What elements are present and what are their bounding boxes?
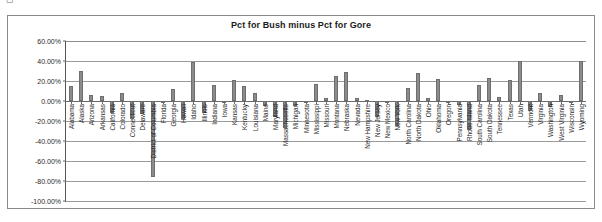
bar[interactable] [212, 85, 216, 101]
bar-group: South Carolina [474, 41, 484, 201]
bar-group: Pennsylvania [453, 41, 463, 201]
x-axis-category-label: Tennessee [496, 104, 503, 134]
bar-group: Maryland [270, 41, 280, 201]
bar-group: Indiana [209, 41, 219, 201]
x-axis-category-label: Idaho [190, 104, 197, 120]
bar[interactable] [508, 80, 512, 101]
bar-group: Hawaii [178, 41, 188, 201]
x-axis-category-label: Delaware [139, 104, 146, 131]
x-axis-category-label: New York [394, 104, 401, 131]
bar[interactable] [477, 85, 481, 101]
bar-group: Wyoming [576, 41, 586, 201]
bar[interactable] [171, 89, 175, 101]
x-axis-category-label: Ohio [424, 104, 431, 117]
bar-group: Vermont [525, 41, 535, 201]
bar-group: Alaska [76, 41, 86, 201]
bar-group: Arizona [86, 41, 96, 201]
bar-group: New Hampshire [362, 41, 372, 201]
x-axis-category-label: Nebraska [343, 104, 350, 131]
x-axis-category-label: Wyoming [577, 104, 584, 130]
bar-group: District of Columbia [148, 41, 158, 201]
bar[interactable] [253, 93, 257, 101]
bar-group: Kansas [229, 41, 239, 201]
x-axis-category-label: Kansas [231, 104, 238, 125]
bar-group: Kentucky [239, 41, 249, 201]
caption-fragment: ◻ [6, 0, 20, 4]
bar-group: Ohio [423, 41, 433, 201]
bar[interactable] [69, 86, 73, 101]
bar[interactable] [487, 78, 491, 101]
x-axis-category-label: New Hampshire [363, 104, 370, 149]
y-axis-tick-label: -20.00% [35, 118, 61, 125]
y-axis-tick-label: -60.00% [35, 158, 61, 165]
bar-group: South Dakota [484, 41, 494, 201]
y-axis-tick-label: 60.00% [37, 38, 61, 45]
x-axis-category-label: Alabama [68, 104, 75, 129]
bar-group: Mississippi [311, 41, 321, 201]
bar-group: Maine [260, 41, 270, 201]
bar-group: Washington [545, 41, 555, 201]
bar-group: Delaware [137, 41, 147, 201]
bar-group: New Mexico [382, 41, 392, 201]
bar[interactable] [344, 72, 348, 101]
x-axis-category-label: Nevada [353, 104, 360, 126]
chart-container: Pct for Bush minus Pct for Gore 60.00%40… [7, 15, 595, 209]
y-axis-tick-label: -40.00% [35, 138, 61, 145]
x-axis-category-label: Arkansas [98, 104, 105, 130]
bar-group: Oregon [443, 41, 453, 201]
x-axis-category-label: North Carolina [404, 104, 411, 145]
x-axis-category-label: Oregon [445, 104, 452, 125]
x-axis-category-label: New Jersey [373, 104, 380, 137]
x-axis-category-label: Maine [261, 104, 268, 121]
x-axis-category-label: Washington [547, 104, 554, 137]
bar[interactable] [579, 61, 583, 101]
x-axis-category-label: Virginia [537, 104, 544, 125]
x-axis-category-label: Louisiana [251, 104, 258, 131]
x-axis-category-label: Montana [333, 104, 340, 129]
x-axis-category-label: Texas [506, 104, 513, 120]
bar-group: Idaho [188, 41, 198, 201]
bar[interactable] [120, 93, 124, 101]
x-axis-category-label: Florida [159, 104, 166, 123]
bar[interactable] [538, 93, 542, 101]
x-axis-category-label: Wisconsin [567, 104, 574, 133]
x-axis-category-label: Utah [516, 104, 523, 117]
bar-group: West Virginia [555, 41, 565, 201]
x-axis-category-label: Pennsylvania [455, 104, 462, 141]
bar-group: Wisconsin [566, 41, 576, 201]
bar[interactable] [518, 61, 522, 102]
y-axis-tick-label: 20.00% [37, 78, 61, 85]
bar[interactable] [242, 86, 246, 101]
bar-group: New York [392, 41, 402, 201]
x-axis-category-label: Connecticut [129, 104, 136, 137]
x-axis-category-label: Michigan [292, 104, 299, 129]
bar[interactable] [232, 80, 236, 101]
bar[interactable] [79, 71, 83, 101]
bar-group: Utah [515, 41, 525, 201]
bar[interactable] [416, 73, 420, 101]
x-axis-category-label: Indiana [210, 104, 217, 125]
x-axis-category-label: Massachusetts [282, 104, 289, 146]
bar[interactable] [191, 62, 195, 102]
bar-group: New Jersey [372, 41, 382, 201]
bar[interactable] [406, 88, 410, 101]
bar-group: Tennessee [494, 41, 504, 201]
bar[interactable] [436, 79, 440, 101]
x-axis-category-label: Rhode Island [465, 104, 472, 141]
bar[interactable] [334, 76, 338, 101]
bar-group: Texas [504, 41, 514, 201]
x-axis-category-label: Mississippi [312, 104, 319, 134]
plot-area: 60.00%40.00%20.00%0.00%-20.00%-40.00%-60… [65, 41, 586, 202]
x-axis-category-label: Georgia [170, 104, 177, 126]
y-axis-tick-label: 0.00% [41, 98, 61, 105]
bar[interactable] [314, 84, 318, 101]
bar-group: Iowa [219, 41, 229, 201]
bar-group: Illinois [199, 41, 209, 201]
x-axis-category-label: South Dakota [486, 104, 493, 142]
x-axis-category-label: Maryland [272, 104, 279, 130]
x-axis-category-label: Hawaii [180, 104, 187, 123]
x-axis-category-label: Missouri [322, 104, 329, 127]
y-axis-tick-label: 40.00% [37, 58, 61, 65]
x-axis-category-label: Vermont [526, 104, 533, 127]
x-axis-category-label: Illinois [200, 104, 207, 121]
